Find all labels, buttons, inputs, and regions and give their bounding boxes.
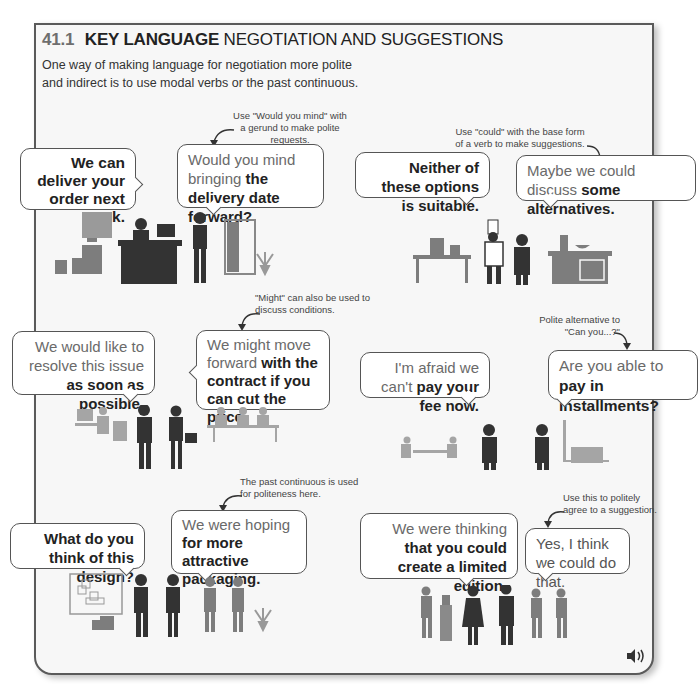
speech-bubble-right: Are you able to pay in installments? — [548, 350, 698, 400]
speaker-icon[interactable] — [626, 648, 646, 664]
speech-bubble-right: Yes, I think we could do that. — [525, 528, 630, 574]
arrow-icon — [612, 330, 632, 352]
speech-bubble-left: I'm afraid we can't pay your fee now. — [360, 352, 490, 398]
note-kitchen: Use "could" with the base form of a verb… — [455, 126, 585, 150]
page-title: 41.1 KEY LANGUAGE NEGOTIATION AND SUGGES… — [42, 30, 503, 50]
intro-text: One way of making language for negotiati… — [42, 56, 382, 92]
speech-bubble-left: Neither of these options is suitable. — [355, 152, 490, 198]
note-delivery: Use "Would you mind" with a gerund to ma… — [230, 110, 350, 146]
intro-line-1: One way of making language for negotiati… — [42, 56, 382, 74]
intro-line-2: and indirect is to use modal verbs or th… — [42, 74, 382, 92]
speech-bubble-right: Would you mind bringing the delivery dat… — [177, 144, 324, 208]
section-number: 41.1 — [42, 30, 74, 49]
speech-bubble-left: We can deliver your order next week. — [20, 148, 136, 210]
kitchen-scene-illustration — [410, 200, 630, 285]
arrow-icon — [538, 508, 568, 530]
speech-bubble-left: We were thinking that you could create a… — [360, 513, 518, 579]
speech-bubble-right: We might move forward with the contract … — [196, 330, 330, 410]
delivery-scene-illustration — [55, 210, 285, 285]
payment-scene-illustration — [395, 400, 625, 470]
note-contract: "Might" can also be used to discuss cond… — [255, 292, 375, 316]
speech-bubble-left: What do you think of this design? — [10, 523, 145, 569]
arrow-icon — [232, 310, 262, 332]
bubble-text-plain: We would like to resolve this issue — [29, 338, 144, 374]
bubble-text-plain: We were hoping — [182, 516, 290, 533]
note-packaging: The past continuous is used for politene… — [240, 476, 370, 500]
product-meeting-illustration — [418, 585, 598, 650]
office-scene-illustration — [75, 405, 290, 470]
note-limited-edition: Use this to politely agree to a suggesti… — [563, 492, 663, 516]
speech-bubble-left: We would like to resolve this issue as s… — [12, 331, 155, 395]
bubble-text-plain: Are you able to — [559, 357, 663, 374]
design-review-illustration — [68, 572, 283, 647]
speech-bubble-right: Maybe we could discuss some alternatives… — [516, 155, 696, 201]
title-rest: NEGOTIATION AND SUGGESTIONS — [224, 30, 504, 49]
speech-bubble-right: We were hoping for more attractive packa… — [171, 510, 307, 574]
bubble-text-plain: Would you mind bringing — [188, 151, 295, 187]
bubble-text-plain: We were thinking — [392, 520, 507, 537]
title-bold: KEY LANGUAGE — [85, 30, 219, 49]
note-installments: Polite alternative to "Can you...?" — [520, 314, 620, 338]
